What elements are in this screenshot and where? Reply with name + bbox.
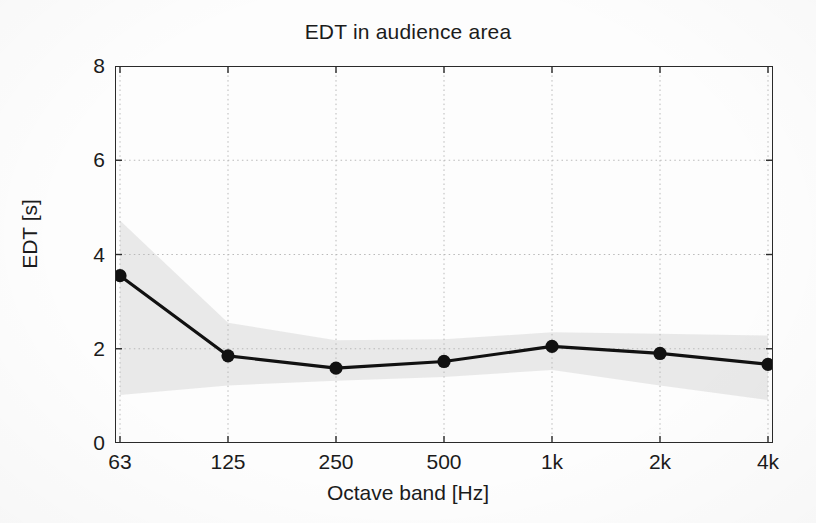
data-point-marker — [653, 347, 666, 360]
x-axis-tick-label: 4k — [733, 450, 803, 474]
plot-area — [115, 66, 773, 443]
plot-canvas — [115, 66, 773, 443]
y-axis-tick-label: 6 — [71, 148, 105, 172]
data-point-marker — [437, 355, 450, 368]
y-axis-title: EDT [s] — [18, 144, 42, 324]
chart-title: EDT in audience area — [0, 20, 816, 44]
x-axis-tick-label: 63 — [85, 450, 155, 474]
confidence-band — [120, 221, 768, 401]
x-axis-tick-label: 125 — [193, 450, 263, 474]
y-axis-tick-label: 2 — [71, 337, 105, 361]
x-axis-tick-label: 2k — [625, 450, 695, 474]
data-point-marker — [329, 361, 342, 374]
x-axis-tick-label: 250 — [301, 450, 371, 474]
data-point-marker — [221, 349, 234, 362]
chart-figure: EDT in audience area 02468 631252505001k… — [0, 0, 816, 523]
data-point-marker — [545, 340, 558, 353]
y-axis-tick-label: 4 — [71, 243, 105, 267]
x-axis-tick-label: 1k — [517, 450, 587, 474]
y-axis-tick-label: 8 — [71, 54, 105, 78]
x-axis-title: Octave band [Hz] — [0, 481, 816, 505]
x-axis-tick-label: 500 — [409, 450, 479, 474]
